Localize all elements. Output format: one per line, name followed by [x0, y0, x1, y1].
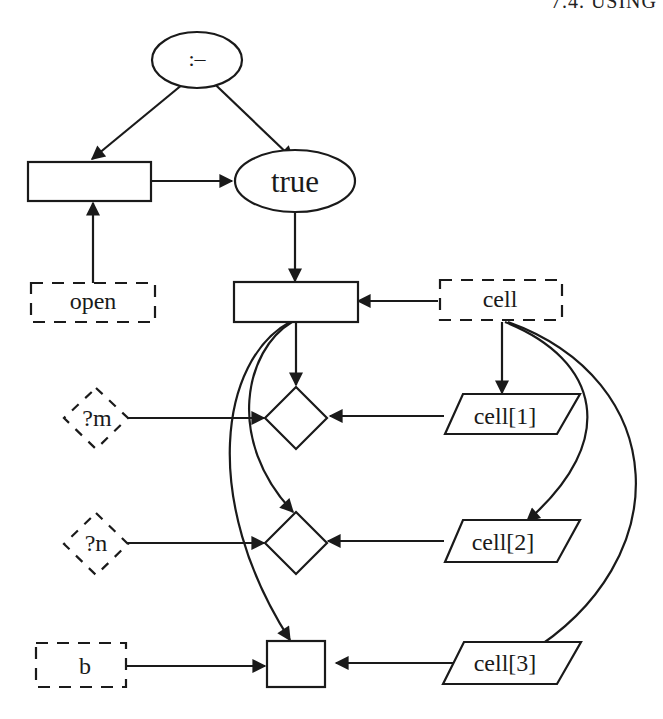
node-n: ?n — [64, 513, 128, 575]
node-cell3-label: cell[3] — [474, 650, 537, 676]
node-b: b — [36, 643, 126, 687]
diagram-canvas: :– true open cell ?m cell[ — [0, 0, 663, 719]
node-true-label: true — [271, 164, 319, 199]
node-diamond1 — [265, 387, 327, 449]
node-bottom-box — [267, 641, 325, 687]
node-m: ?m — [64, 388, 128, 449]
edge-body-box-to-bottom-box — [230, 322, 290, 640]
node-cell: cell — [440, 280, 562, 320]
node-m-label: ?m — [82, 405, 112, 431]
node-cell2: cell[2] — [445, 520, 580, 562]
node-cell2-label: cell[2] — [472, 529, 535, 555]
node-cell1-label: cell[1] — [474, 403, 537, 429]
node-cell1: cell[1] — [445, 394, 580, 434]
node-b-label: b — [79, 653, 91, 679]
node-head-box — [28, 162, 151, 201]
node-n-label: ?n — [85, 530, 108, 556]
node-body-box — [234, 282, 358, 322]
node-true: true — [235, 150, 355, 212]
node-neck-label: :– — [188, 46, 206, 71]
node-open-label: open — [70, 288, 117, 314]
node-cell-label: cell — [483, 286, 518, 312]
node-neck: :– — [152, 32, 242, 88]
node-open: open — [31, 283, 155, 322]
node-cell3: cell[3] — [443, 642, 581, 684]
node-diamond2 — [265, 512, 327, 574]
